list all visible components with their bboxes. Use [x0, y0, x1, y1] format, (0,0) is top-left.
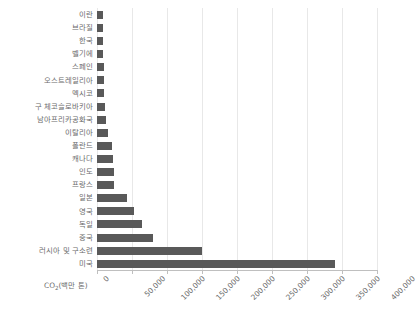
y-axis-label: 미국	[5, 257, 97, 271]
y-axis-category-labels: 이란브라질한국벨기에스페인오스트레일리아멕시코구 체코슬로바키아남아프리카공화국…	[0, 8, 97, 270]
bar-row	[97, 47, 377, 61]
y-axis-label: 이탈리아	[5, 126, 97, 140]
bar-row	[97, 60, 377, 74]
axis-title-post: (백만 톤)	[59, 281, 88, 290]
bar	[97, 24, 103, 32]
y-axis-label: 오스트레일리아	[5, 74, 97, 88]
tick-mark	[132, 270, 133, 274]
x-tick-label: 50,000	[143, 274, 168, 299]
bar-row	[97, 74, 377, 88]
tick-mark	[272, 270, 273, 274]
y-axis-label: 캐나다	[5, 152, 97, 166]
bar	[97, 142, 112, 150]
bar	[97, 194, 127, 202]
x-tick-label: 100,000	[179, 274, 207, 302]
tick-mark	[377, 270, 378, 274]
x-tick-label: 0	[101, 274, 111, 284]
axis-title-subscript: 2	[55, 285, 59, 291]
y-axis-label: 중국	[5, 231, 97, 245]
bar-row	[97, 244, 377, 258]
tick-mark	[342, 270, 343, 274]
bar-row	[97, 100, 377, 114]
bar	[97, 129, 108, 137]
bar-row	[97, 218, 377, 232]
bar-row	[97, 113, 377, 127]
bar	[97, 11, 103, 19]
bar	[97, 116, 106, 124]
bar-row	[97, 178, 377, 192]
plot-area	[97, 8, 377, 270]
bar-row	[97, 21, 377, 35]
x-tick-label: 400,000	[389, 274, 417, 302]
bar	[97, 37, 103, 45]
y-axis-label: 남아프리카공화국	[5, 113, 97, 127]
y-axis-label: 폴란드	[5, 139, 97, 153]
bar-row	[97, 165, 377, 179]
y-axis-label: 이란	[5, 8, 97, 22]
bar	[97, 207, 134, 215]
y-axis-label: 브라질	[5, 21, 97, 35]
bar	[97, 103, 105, 111]
bar-row	[97, 87, 377, 101]
bar	[97, 50, 103, 58]
bar	[97, 89, 104, 97]
tick-mark	[97, 270, 98, 274]
bar	[97, 155, 113, 163]
y-axis-label: 벨기에	[5, 47, 97, 61]
axis-title-pre: CO	[44, 281, 55, 290]
bar	[97, 76, 104, 84]
x-axis-title: CO2(백만 톤)	[44, 279, 88, 290]
y-axis-label: 한국	[5, 34, 97, 48]
y-axis-label: 영국	[5, 205, 97, 219]
bar	[97, 247, 202, 255]
y-axis-label: 인도	[5, 165, 97, 179]
bar	[97, 234, 153, 242]
bar-row	[97, 34, 377, 48]
bar	[97, 260, 335, 268]
gridline-400000	[377, 8, 378, 270]
bar	[97, 220, 142, 228]
bar-row	[97, 191, 377, 205]
tick-mark	[167, 270, 168, 274]
bar-row	[97, 231, 377, 245]
x-tick-label: 150,000	[214, 274, 242, 302]
x-tick-label: 300,000	[319, 274, 347, 302]
y-axis-label: 구 체코슬로바키아	[5, 100, 97, 114]
tick-mark	[202, 270, 203, 274]
bar-row	[97, 205, 377, 219]
bar-row	[97, 126, 377, 140]
y-axis-label: 독일	[5, 218, 97, 232]
tick-mark	[237, 270, 238, 274]
bar	[97, 168, 114, 176]
tick-mark	[307, 270, 308, 274]
y-axis-label: 러시아 및 구소련	[5, 244, 97, 258]
x-tick-label: 250,000	[284, 274, 312, 302]
y-axis-label: 프랑스	[5, 178, 97, 192]
bar	[97, 63, 104, 71]
bar-row	[97, 152, 377, 166]
bar	[97, 181, 114, 189]
y-axis-label: 스페인	[5, 60, 97, 74]
bar-row	[97, 8, 377, 22]
x-tick-label: 200,000	[249, 274, 277, 302]
bar-row	[97, 139, 377, 153]
y-axis-label: 일본	[5, 191, 97, 205]
bar-row	[97, 257, 377, 271]
y-axis-label: 멕시코	[5, 87, 97, 101]
x-tick-label: 350,000	[354, 274, 382, 302]
